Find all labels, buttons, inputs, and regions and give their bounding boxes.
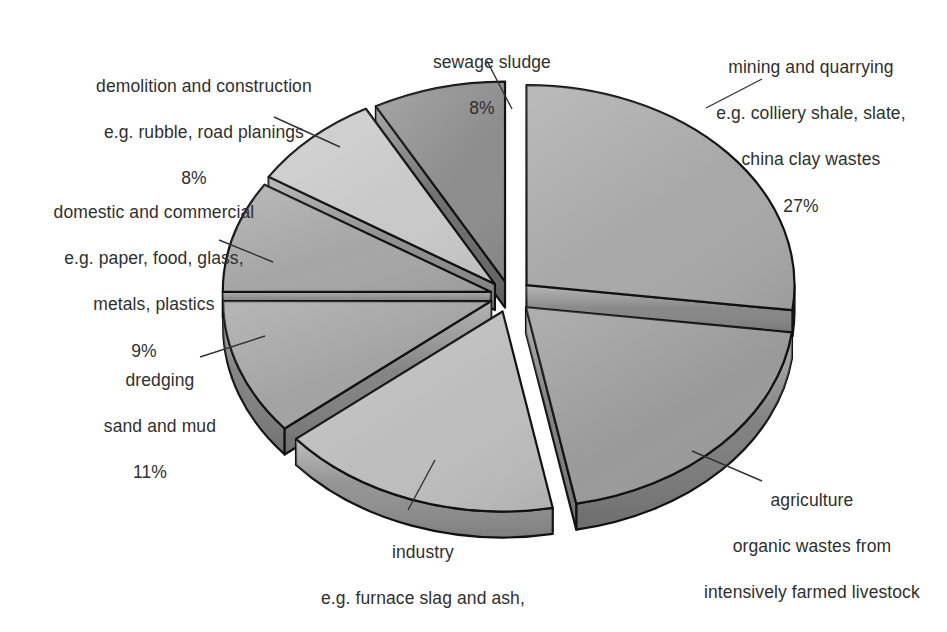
label-agriculture: agriculture organic wastes from intensiv… xyxy=(662,466,942,632)
label-dredging-percent: 11% xyxy=(40,461,260,484)
label-agriculture-line3: intensively farmed livestock xyxy=(704,582,920,602)
label-agriculture-line2: organic wastes from xyxy=(733,536,892,556)
label-sewage-sludge: sewage sludge 8% xyxy=(352,28,612,167)
label-sewage-sludge-percent: 8% xyxy=(352,97,612,120)
label-mining-percent: 27% xyxy=(660,195,942,218)
label-domestic-line1: domestic and commercial xyxy=(54,202,255,222)
label-agriculture-percent: 20% xyxy=(662,628,942,632)
label-domestic-line2: e.g. paper, food, glass, xyxy=(64,248,243,268)
pie-chart-figure: sewage sludge 8% mining and quarrying e.… xyxy=(0,0,947,632)
label-mining-and-quarrying: mining and quarrying e.g. colliery shale… xyxy=(660,33,942,264)
label-dredging-line2: sand and mud xyxy=(104,416,216,436)
label-industry-line2: e.g. furnace slag and ash, xyxy=(321,588,525,608)
label-industry-line1: industry xyxy=(392,542,454,562)
label-industry: industry e.g. furnace slag and ash, many… xyxy=(218,518,608,632)
label-agriculture-line1: agriculture xyxy=(771,490,854,510)
label-domestic-line3: metals, plastics xyxy=(93,294,214,314)
label-dredging-line1: dredging xyxy=(125,370,194,390)
label-demolition-line1: demolition and construction xyxy=(96,76,312,96)
label-mining-line2: e.g. colliery shale, slate, xyxy=(716,103,905,123)
label-mining-line1: mining and quarrying xyxy=(728,57,893,77)
label-dredging: dredging sand and mud 11% xyxy=(40,346,260,531)
label-demolition-line2: e.g. rubble, road planings xyxy=(104,122,304,142)
label-mining-line3: china clay wastes xyxy=(742,149,881,169)
label-sewage-sludge-line1: sewage sludge xyxy=(433,52,551,72)
